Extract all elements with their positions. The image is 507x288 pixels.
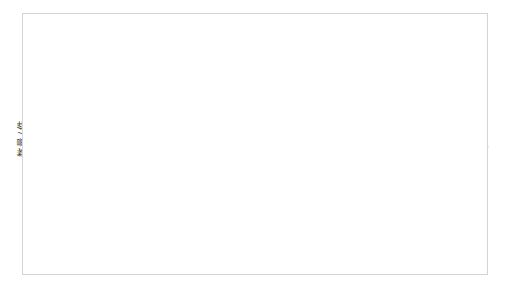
chart-container: 01020304050607080 2003200420052006200720… [0,0,507,288]
chart-border-frame [22,13,488,275]
